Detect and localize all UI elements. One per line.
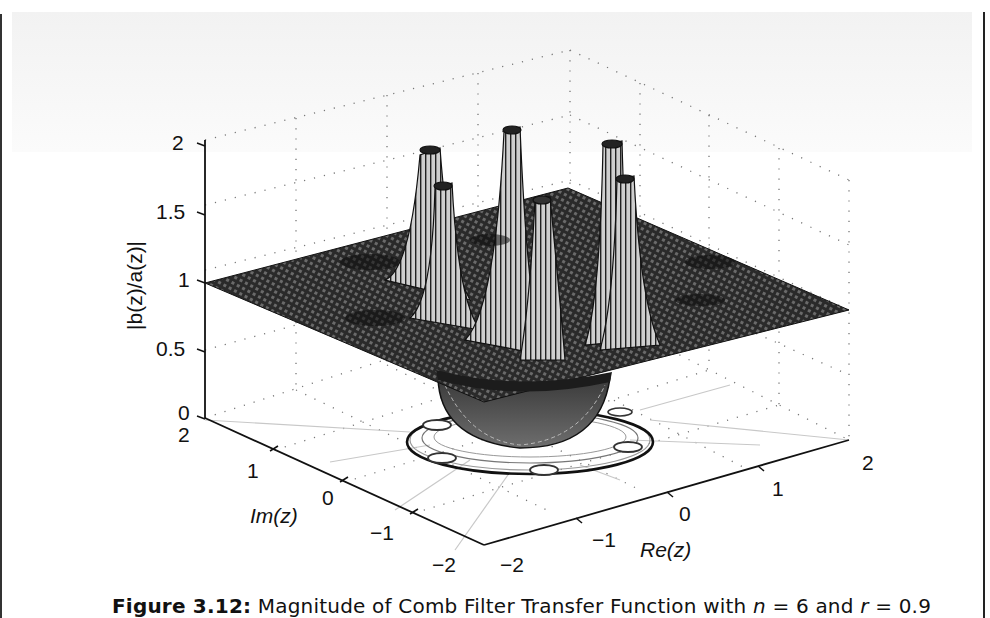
z-axis-label: |b(z)/a(z)| [123,241,146,330]
figure-caption: Figure 3.12: Magnitude of Comb Filter Tr… [112,594,931,618]
caption-r: r [860,594,868,618]
z-axis-ticks [197,143,205,419]
z-tick-1.5: 1.5 [156,200,185,223]
x-tick-neg2: −2 [500,553,524,576]
y-tick-2: 2 [178,423,190,446]
caption-r-value: = 0.9 [869,594,931,618]
y-tick-neg1: −1 [370,521,394,544]
x-tick-neg1: −1 [592,528,616,551]
caption-n: n [753,594,766,618]
x-axis-label: Re(z) [640,538,691,561]
caption-n-value: = 6 and [766,594,860,618]
caption-prefix: Figure 3.12: [112,594,251,618]
y-axis-label: Im(z) [250,504,298,527]
z-tick-0: 0 [178,401,190,424]
z-tick-0.5: 0.5 [156,337,185,360]
y-tick-0: 0 [322,486,334,509]
x-tick-2: 2 [862,451,874,474]
z-tick-1: 1 [178,268,190,291]
caption-text: Magnitude of Comb Filter Transfer Functi… [258,594,747,618]
z-tick-2: 2 [172,131,184,154]
y-tick-1: 1 [247,459,259,482]
y-tick-neg2: −2 [432,553,456,576]
x-tick-1: 1 [772,477,784,500]
x-tick-0: 0 [679,502,691,525]
surface-plot: 2 1.5 1 0.5 0 2 1 0 −1 −2 Im(z) −2 −1 0 … [0,0,990,618]
